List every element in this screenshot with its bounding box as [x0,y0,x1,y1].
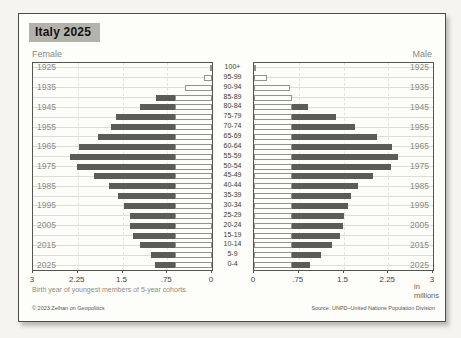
age-group-label: 90-94 [212,83,253,91]
bar-female [118,193,175,199]
bar-female [130,213,175,219]
bar-male [292,233,340,239]
age-group-label: 10-14 [212,240,253,248]
bar-female-outline [175,193,212,199]
cohort-year-label: 1955 [410,123,429,132]
cohort-year-label: 1975 [410,162,429,171]
bar-female [155,262,175,268]
cohort-year-label: 1935 [410,83,429,92]
male-chart: 1925193519451955196519751985199520052015… [253,62,434,271]
bar-male [292,114,337,120]
cohort-year-label: 1925 [410,63,429,72]
bar-male-outline [254,114,292,120]
bar-male [292,173,374,179]
bar-female-outline [175,203,212,209]
bar-male-outline [254,183,292,189]
gridline-row [254,77,433,78]
source-note: Source: UNPD–United Nations Population D… [311,305,435,311]
bar-male-outline [254,262,292,268]
bar-male-outline [254,95,292,101]
cohort-year-label: 1955 [37,123,56,132]
bar-female-outline [175,95,212,101]
axis-tick-label: 3 [20,275,44,284]
age-group-label: 50-54 [212,162,253,170]
bar-male [292,252,321,258]
bar-male-outline [254,193,292,199]
gridline-row [33,67,212,68]
bar-male-outline [254,242,292,248]
bar-female [111,124,175,130]
axis-tick [253,270,254,273]
bar-male [292,183,358,189]
page-title: Italy 2025 [29,23,100,42]
bar-female-outline [175,124,212,130]
bar-female-outline [175,144,212,150]
page: { "header": { "title": "Italy 2025" }, "… [0,0,461,338]
bar-male [292,164,391,170]
axis-tick [298,270,299,273]
age-group-label: 55-59 [212,152,253,160]
age-group-label: 40-44 [212,181,253,189]
bar-female-outline [175,252,212,258]
copyright-note: © 2023 Zeihan on Geopolitics [32,305,105,311]
male-axis-title: Male [412,49,432,59]
bar-female [109,183,175,189]
female-axis-title: Female [32,49,62,59]
age-group-label: 75-79 [212,112,253,120]
gridline-row [33,77,212,78]
bar-male [292,213,345,219]
bar-female-outline [175,134,212,140]
bar-male [292,134,377,140]
bar-male-outline [254,75,267,81]
bar-male-outline [254,65,256,71]
age-group-label: 45-49 [212,171,253,179]
axis-tick-label: 0 [241,275,265,284]
age-group-label: 65-69 [212,132,253,140]
bar-female-outline [175,114,212,120]
bar-female-outline [175,242,212,248]
bar-female-outline [175,213,212,219]
axis-tick-label: 0 [199,275,223,284]
bar-female [156,95,175,101]
bar-female [94,173,175,179]
bar-male [292,203,348,209]
axis-tick-label: 1.5 [331,275,355,284]
bar-female [98,134,175,140]
bar-male-outline [254,104,292,110]
bar-male-outline [254,134,292,140]
axis-tick [211,270,212,273]
age-group-label: 20-24 [212,221,253,229]
bar-female [79,144,175,150]
axis-tick-label: .75 [154,275,178,284]
cohort-year-label: 1945 [37,103,56,112]
chart-card: Italy 2025 Female Male 19251935194519551… [18,13,446,322]
cohort-year-label: 2015 [410,241,429,250]
bar-female [77,164,175,170]
bar-male [292,223,343,229]
axis-tick [166,270,167,273]
bar-male-outline [254,144,292,150]
cohort-year-label: 1985 [410,182,429,191]
axis-tick [122,270,123,273]
footnote: Birth year of youngest members of 5-year… [32,286,188,293]
bar-male-outline [254,164,292,170]
age-group-label: 85-89 [212,93,253,101]
bar-male-outline [254,85,290,91]
cohort-year-label: 2025 [37,261,56,270]
bar-male-outline [254,223,292,229]
cohort-year-label: 2005 [37,221,56,230]
cohort-year-label: 1965 [410,142,429,151]
axis-tick-label: .75 [286,275,310,284]
cohort-year-label: 1925 [37,63,56,72]
bar-female-outline [204,75,212,81]
bar-male [292,242,332,248]
unit-label: in millions [414,282,445,300]
bar-female [133,233,175,239]
axis-tick [432,270,433,273]
bar-female [130,223,175,229]
age-group-label: 80-84 [212,102,253,110]
bar-female [124,203,175,209]
age-group-label: 15-19 [212,231,253,239]
axis-tick [77,270,78,273]
bar-male [292,193,351,199]
